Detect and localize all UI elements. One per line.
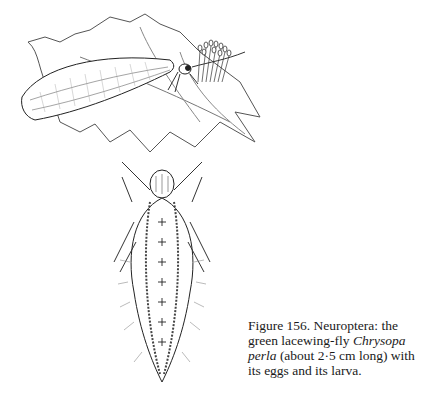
adult-lacewing-illustration: [20, 12, 320, 152]
larva-illustration: [112, 162, 212, 388]
figure-caption: Figure 156. Neuroptera: the green lacewi…: [248, 318, 423, 378]
